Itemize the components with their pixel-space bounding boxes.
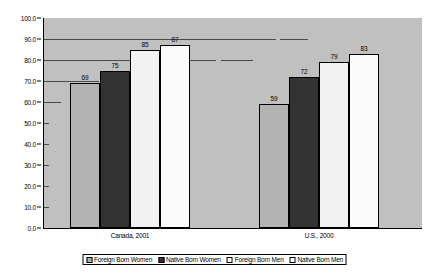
legend-swatch	[158, 257, 164, 263]
y-axis-tick-mark	[37, 39, 41, 40]
legend-item: Foreign Born Men	[227, 256, 284, 263]
chart-legend: Foreign Born WomenNative Born WomenForei…	[82, 254, 347, 265]
y-axis-tick-mark	[37, 81, 41, 82]
y-axis-tick-label: 0.0	[28, 225, 36, 232]
legend-label: Foreign Born Women	[94, 256, 152, 263]
bar-value-label: 75	[112, 62, 119, 69]
bars-layer: 6975858759727983	[44, 18, 421, 228]
bar	[100, 71, 130, 229]
legend-swatch	[290, 257, 296, 263]
y-axis-tick-mark	[37, 123, 41, 124]
y-axis-tick-mark	[37, 165, 41, 166]
bar	[70, 83, 100, 228]
legend-label: Native Born Women	[166, 256, 221, 263]
category-axis: Canada, 2001U.S., 2000	[44, 232, 421, 246]
bar-value-label: 79	[331, 53, 338, 60]
y-axis-tick-label: 30.0	[24, 162, 36, 169]
bar	[319, 62, 349, 228]
bar	[160, 45, 190, 228]
y-axis-tick-mark	[37, 102, 41, 103]
y-axis-tick-label: 60.0	[24, 99, 36, 106]
y-axis-tick-label: 50.0	[24, 120, 36, 127]
bar-value-label: 85	[142, 41, 149, 48]
y-axis-tick-label: 90.0	[24, 36, 36, 43]
y-axis-tick-label: 10.0	[24, 204, 36, 211]
bar	[259, 104, 289, 228]
y-axis-tick-mark	[37, 18, 41, 19]
legend-swatch	[227, 257, 233, 263]
bar	[289, 77, 319, 228]
y-axis-tick-mark	[37, 60, 41, 61]
bar-value-label: 87	[172, 36, 179, 43]
legend-item: Native Born Men	[290, 256, 343, 263]
y-axis-tick-label: 80.0	[24, 57, 36, 64]
category-label: Canada, 2001	[111, 232, 149, 239]
legend-label: Foreign Born Men	[235, 256, 284, 263]
bar	[349, 54, 379, 228]
bar-value-label: 69	[82, 74, 89, 81]
y-axis-tick-label: 70.0	[24, 78, 36, 85]
y-axis-tick-mark	[37, 207, 41, 208]
legend-swatch	[86, 257, 92, 263]
bar-chart: 0.010.020.030.040.050.060.070.080.090.01…	[0, 0, 429, 276]
y-axis-tick-label: 20.0	[24, 183, 36, 190]
bar-value-label: 59	[271, 95, 278, 102]
bar-value-label: 83	[361, 45, 368, 52]
legend-item: Foreign Born Women	[86, 256, 152, 263]
y-axis-tick-mark	[37, 228, 41, 229]
legend-item: Native Born Women	[158, 256, 221, 263]
y-axis-tick-mark	[37, 144, 41, 145]
legend-label: Native Born Men	[298, 256, 343, 263]
y-axis-tick-label: 40.0	[24, 141, 36, 148]
y-axis-tick-mark	[37, 186, 41, 187]
bar	[130, 50, 160, 229]
y-axis: 0.010.020.030.040.050.060.070.080.090.01…	[0, 18, 41, 228]
y-axis-tick-label: 100.0	[21, 15, 36, 22]
category-label: U.S., 2000	[305, 232, 334, 239]
bar-value-label: 72	[301, 68, 308, 75]
